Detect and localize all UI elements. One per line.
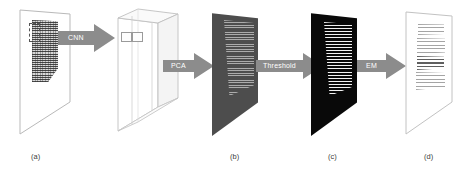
feature-patch-right	[132, 32, 143, 42]
em-result-body-lines-lower	[416, 72, 445, 90]
arrow-pca-label: PCA	[163, 62, 194, 69]
arrow-threshold-label: Threshold	[256, 62, 303, 69]
patch-selection-box	[29, 23, 40, 42]
feature-patch-left	[121, 32, 132, 42]
caption-d: (d)	[424, 152, 433, 161]
arrow-em-label: EM	[357, 62, 386, 69]
caption-c: (c)	[328, 152, 337, 161]
arrow-cnn-label: CNN	[58, 34, 94, 41]
panel-em-result	[396, 6, 462, 140]
em-result-heading-lines	[418, 24, 444, 35]
pipeline-figure: (a) CNN PCA	[0, 0, 464, 179]
em-result-body-lines-upper	[417, 38, 445, 54]
em-result-emphasis-block	[417, 56, 444, 70]
caption-a: (a)	[31, 152, 40, 161]
caption-b: (b)	[230, 152, 239, 161]
